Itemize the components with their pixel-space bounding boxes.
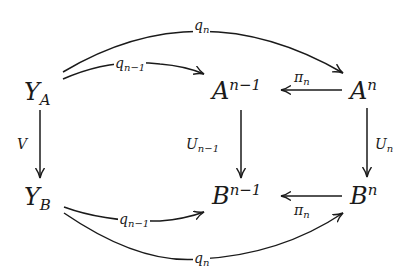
label-base: q <box>194 250 203 266</box>
label-base: V <box>17 136 27 152</box>
label-base: π <box>294 69 303 85</box>
node-b-n: Bn <box>350 183 377 208</box>
label-v: V <box>16 137 28 154</box>
label-sub: n <box>303 76 309 87</box>
node-sup: n <box>368 181 378 199</box>
commutative-diagram: YA An−1 An YB Bn−1 Bn qn qn−1 πn V Un−1 … <box>0 0 410 279</box>
label-base: U <box>375 136 387 152</box>
label-top-inner: qn−1 <box>114 56 146 73</box>
label-sub: n <box>303 209 309 220</box>
label-bottom-inner: qn−1 <box>118 212 150 229</box>
node-y-a: YA <box>24 80 51 108</box>
node-base: A <box>212 77 229 105</box>
label-sub: n <box>203 257 209 268</box>
label-base: q <box>119 211 128 227</box>
node-b-n-minus-1: Bn−1 <box>212 183 261 208</box>
label-base: U <box>186 136 198 152</box>
arrow-top-outer <box>63 31 343 73</box>
node-a-n-minus-1: An−1 <box>212 78 261 103</box>
label-sub: n−1 <box>124 62 145 73</box>
label-sub: n−1 <box>128 218 149 229</box>
label-base: q <box>194 17 203 33</box>
node-a-n: An <box>350 78 377 103</box>
label-u-n: Un <box>374 137 394 154</box>
label-bottom-outer: qn <box>193 251 210 268</box>
label-u-n-minus-1: Un−1 <box>185 137 220 154</box>
label-base: π <box>294 202 303 218</box>
label-top-outer: qn <box>193 18 210 35</box>
label-sub: n <box>203 24 209 35</box>
node-base: Y <box>24 183 40 211</box>
node-sub: A <box>40 91 51 109</box>
label-base: q <box>115 55 124 71</box>
node-sup: n <box>367 76 377 94</box>
label-sub: n−1 <box>198 143 219 154</box>
node-base: B <box>212 182 230 210</box>
label-pi-bottom: πn <box>293 203 311 220</box>
node-sup: n−1 <box>229 76 261 94</box>
node-sup: n−1 <box>230 181 262 199</box>
label-sub: n <box>387 143 393 154</box>
label-pi-top: πn <box>293 70 311 87</box>
node-base: B <box>350 182 368 210</box>
node-sub: B <box>40 196 51 214</box>
node-base: Y <box>24 78 40 106</box>
node-y-b: YB <box>24 185 51 213</box>
node-base: A <box>350 77 367 105</box>
